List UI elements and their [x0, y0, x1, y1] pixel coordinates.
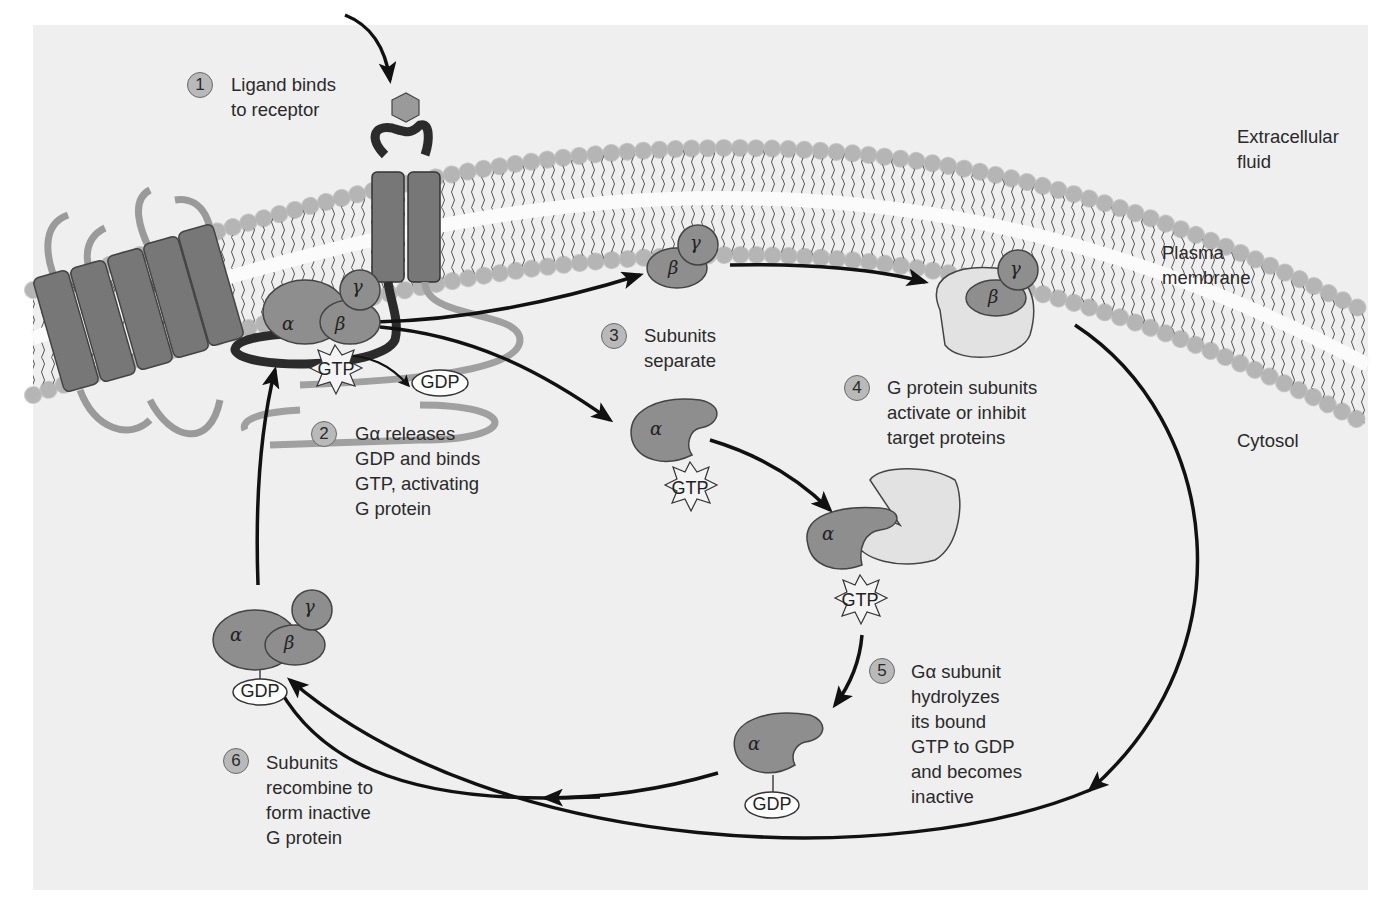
- step-5-badge: 5: [869, 658, 895, 684]
- arrow-alpha-to-target: [710, 440, 830, 510]
- ligand-arrow: [345, 15, 390, 80]
- gdp-label-6: GDP: [233, 681, 287, 702]
- alpha-label-6: α: [230, 624, 242, 645]
- step-3-badge: 3: [601, 323, 627, 349]
- arrow-alpha-return: [545, 773, 718, 798]
- arrow-betagamma-return: [1075, 325, 1197, 790]
- step-2-badge: 2: [311, 421, 337, 447]
- gamma-label: γ: [352, 276, 363, 297]
- receptor-helices-left: [32, 190, 244, 434]
- step-6-text: Subunits recombine to form inactive G pr…: [266, 750, 373, 850]
- arrow-reactivate: [257, 370, 275, 585]
- beta-label: β: [335, 313, 345, 334]
- step-2-text: Gα releases GDP and binds GTP, activatin…: [355, 421, 480, 521]
- gamma-label-4: γ: [1010, 258, 1021, 279]
- alpha-label: α: [282, 313, 294, 334]
- beta-label-6: β: [284, 632, 294, 653]
- arrow-hydrolysis: [835, 635, 862, 705]
- gdp-label-5: GDP: [745, 794, 799, 815]
- target-protein-alpha: [807, 469, 960, 624]
- extracellular-fluid-label: Extracellular fluid: [1237, 124, 1339, 174]
- plasma-membrane-label: Plasma membrane: [1162, 240, 1250, 290]
- step-4-badge: 4: [844, 375, 870, 401]
- step-4-text: G protein subunits activate or inhibit t…: [887, 375, 1037, 450]
- alpha-label-4: α: [822, 523, 834, 544]
- cytosol-label: Cytosol: [1237, 428, 1299, 453]
- step-1-badge: 1: [187, 72, 213, 98]
- g-protein-cycle-diagram: [0, 0, 1400, 907]
- gtp-label-4: GTP: [837, 590, 883, 611]
- beta-label-4: β: [988, 286, 998, 307]
- step-6-badge: 6: [223, 748, 249, 774]
- gtp-label-3: GTP: [667, 478, 713, 499]
- step-5-text: Gα subunit hydrolyzes its bound GTP to G…: [911, 659, 1022, 809]
- step-3-text: Subunits separate: [644, 323, 716, 373]
- alpha-label-3: α: [650, 418, 662, 439]
- gdp-label-1: GDP: [412, 372, 468, 393]
- gamma-label-6: γ: [304, 596, 315, 617]
- step-1-text: Ligand binds to receptor: [231, 72, 336, 122]
- alpha-label-5: α: [748, 733, 760, 754]
- ligand: [392, 93, 419, 122]
- beta-label-3: β: [668, 257, 678, 278]
- gtp-label-1: GTP: [313, 359, 359, 380]
- gamma-label-3: γ: [690, 232, 701, 253]
